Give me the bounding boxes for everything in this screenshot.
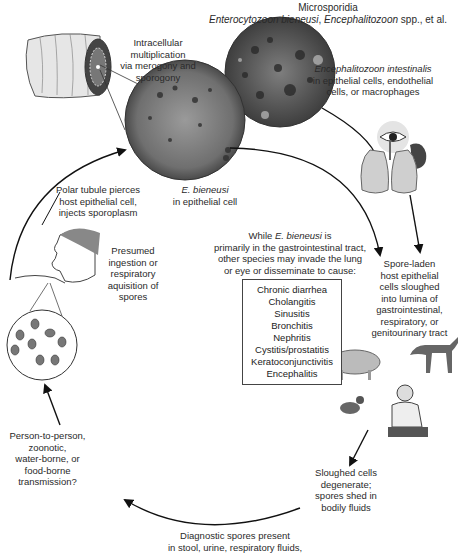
diagram-title: Microsporidia Enterocytozoon bieneusi, E… (195, 2, 461, 25)
line: respiratory (103, 268, 163, 280)
text: is (322, 230, 332, 241)
line: zoonotic, (5, 442, 90, 454)
disease-item: Bronchitis (247, 320, 337, 332)
line: cells, or macrophages (298, 86, 448, 98)
line: spores shed in (306, 490, 386, 502)
e-intestinalis-label: Encephalitozoon intestinalis in epitheli… (298, 63, 448, 98)
line: host epithelial (362, 270, 457, 282)
title-line-1: Microsporidia (195, 2, 461, 14)
spores-icon (7, 283, 77, 380)
disease-item: Keratoconjunctivitis (247, 356, 337, 368)
line: primarily in the gastrointestinal tract, (210, 242, 370, 254)
line: Spore-laden (362, 258, 457, 270)
human-head-icon (15, 228, 100, 283)
line: via merogony and (118, 60, 198, 72)
eye-icon (377, 121, 409, 153)
disease-item: Cholangitis (247, 296, 337, 308)
title-species-b: Encephalitozoon (324, 14, 398, 25)
line: in epithelial cells, endothelial (298, 75, 448, 87)
line: injects sporoplasm (48, 207, 148, 219)
line: respiratory, or (362, 316, 457, 328)
line: gastrointestinal, (362, 304, 457, 316)
line: Sloughed cells (306, 467, 386, 479)
disease-item: Chronic diarrhea (247, 284, 337, 296)
line: Intracellular (118, 37, 198, 49)
species-name: E. bieneusi (181, 184, 228, 195)
line: transmission? (5, 476, 90, 488)
disease-item: Cystitis/prostatitis (247, 344, 337, 356)
text: While (249, 230, 275, 241)
polar-tubule-label: Polar tubule pierces host epithelial cel… (48, 184, 148, 219)
line: Presumed (103, 245, 163, 257)
line: Polar tubule pierces (48, 184, 148, 196)
lungs-icon (361, 140, 417, 193)
line: food-borne (5, 465, 90, 477)
disease-item: Encephalitis (247, 368, 337, 380)
title-species-a: Enterocytozoon bieneusi (209, 14, 319, 25)
e-bieneusi-label: E. bieneusi in epithelial cell (155, 184, 255, 207)
line: degenerate; (306, 479, 386, 491)
line: in epithelial cell (155, 196, 255, 208)
spore-laden-label: Spore-laden host epithelial cells slough… (362, 258, 457, 339)
intestine-icon (26, 34, 111, 98)
diagnostic-label: Diagnostic spores present in stool, urin… (140, 530, 330, 553)
intracellular-label: Intracellular multiplication via merogon… (118, 37, 198, 83)
disease-item: Sinusitis (247, 308, 337, 320)
line: bodily fluids (306, 502, 386, 514)
line: host epithelial cell, (48, 196, 148, 208)
line: ingestion or (103, 257, 163, 269)
man-icon (388, 385, 428, 437)
presumed-label: Presumed ingestion or respiratory aquisi… (103, 245, 163, 303)
line: cells sloughed (362, 281, 457, 293)
pigeon-icon (340, 396, 364, 414)
sloughed-label: Sloughed cells degenerate; spores shed i… (306, 467, 386, 513)
transmission-label: Person-to-person, zoonotic, water-borne,… (5, 430, 90, 488)
line: into lumina of (362, 293, 457, 305)
title-rest: spp., et al. (398, 14, 447, 25)
line: spores (103, 291, 163, 303)
species-name: E. bieneusi (275, 230, 322, 241)
line: Diagnostic spores present (140, 530, 330, 542)
species-name: Encephalitozoon intestinalis (314, 63, 431, 74)
line: sporogony (118, 72, 198, 84)
line: multiplication (118, 49, 198, 61)
line: water-borne, or (5, 453, 90, 465)
disease-list: Chronic diarrhea Cholangitis Sinusitis B… (242, 279, 342, 385)
line: aquisition of (103, 280, 163, 292)
line: in stool, urine, respiratory fluids, (140, 542, 330, 553)
line: other species may invade the lung (210, 253, 370, 265)
disease-item: Nephritis (247, 332, 337, 344)
line: Person-to-person, (5, 430, 90, 442)
line: or eye or disseminate to cause: (210, 265, 370, 277)
dog-icon (410, 337, 458, 373)
while-label: While E. bieneusi is primarily in the ga… (210, 230, 370, 276)
line: genitourinary tract (362, 327, 457, 339)
title-line-2: Enterocytozoon bieneusi, Encephalitozoon… (195, 14, 461, 26)
